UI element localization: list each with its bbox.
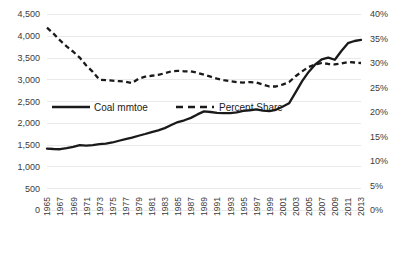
y-axis-right-labels: 0%5%10%15%20%25%30%35%40% <box>370 9 388 215</box>
y-axis-right-tick-label: 0% <box>370 205 383 215</box>
x-axis-tick-label: 2003 <box>291 197 301 216</box>
y-axis-right-tick-label: 25% <box>370 83 388 93</box>
x-axis-tick-label: 1975 <box>108 197 118 216</box>
line-chart: 05001,0001,5002,0002,5003,0003,5004,0004… <box>0 0 407 261</box>
y-axis-right-tick-label: 15% <box>370 132 388 142</box>
x-axis-tick-label: 1985 <box>173 197 183 216</box>
y-axis-left-tick-label: 3,500 <box>17 53 40 63</box>
x-axis-tick-label: 1971 <box>82 197 92 216</box>
y-axis-left-tick-label: 4,000 <box>17 31 40 41</box>
y-axis-right-tick-label: 35% <box>370 34 388 44</box>
y-axis-left-tick-label: 500 <box>25 184 40 194</box>
y-axis-left-tick-label: 3,000 <box>17 75 40 85</box>
legend-label-coal-mmtoe: Coal mmtoe <box>94 102 148 113</box>
y-axis-left-tick-label: 1,500 <box>17 140 40 150</box>
x-axis-tick-label: 2001 <box>278 197 288 216</box>
x-axis-tick-label: 1997 <box>252 197 262 216</box>
x-axis-tick-label: 1989 <box>199 197 209 216</box>
y-axis-left-tick-label: 0 <box>35 205 40 215</box>
x-axis-tick-label: 1991 <box>212 197 222 216</box>
x-axis-tick-label: 2009 <box>330 197 340 216</box>
y-axis-right-tick-label: 10% <box>370 156 388 166</box>
chart-container: 05001,0001,5002,0002,5003,0003,5004,0004… <box>0 0 407 261</box>
x-axis-tick-label: 1977 <box>121 197 131 216</box>
y-axis-right-tick-label: 20% <box>370 107 388 117</box>
x-axis-tick-label: 2013 <box>356 197 366 216</box>
y-axis-left-tick-label: 1,000 <box>17 162 40 172</box>
x-axis-tick-label: 1979 <box>134 197 144 216</box>
x-axis-tick-label: 2005 <box>304 197 314 216</box>
y-axis-right-tick-label: 40% <box>370 9 388 19</box>
y-axis-left-labels: 05001,0001,5002,0002,5003,0003,5004,0004… <box>17 9 40 215</box>
x-axis-tick-label: 1987 <box>186 197 196 216</box>
y-axis-left-tick-label: 2,000 <box>17 118 40 128</box>
y-axis-right-tick-label: 30% <box>370 58 388 68</box>
y-axis-left-tick-label: 4,500 <box>17 9 40 19</box>
x-axis-tick-label: 1993 <box>226 197 236 216</box>
x-axis-tick-label: 1999 <box>265 197 275 216</box>
chart-legend: Coal mmtoePercent Share <box>52 102 283 113</box>
series-line-1 <box>47 40 361 149</box>
x-axis-tick-label: 2007 <box>317 197 327 216</box>
x-axis-tick-label: 2011 <box>343 197 353 216</box>
x-axis-tick-label: 1981 <box>147 197 157 216</box>
x-axis-tick-label: 1965 <box>42 197 52 216</box>
y-axis-right-tick-label: 5% <box>370 181 383 191</box>
legend-label-percent-share: Percent Share <box>219 102 283 113</box>
x-axis-tick-label: 1973 <box>95 197 105 216</box>
x-axis-tick-label: 1967 <box>55 197 65 216</box>
y-axis-left-tick-label: 2,500 <box>17 97 40 107</box>
x-axis-labels: 1965196719691971197319751977197919811983… <box>42 197 366 216</box>
x-axis-tick-label: 1995 <box>239 197 249 216</box>
x-axis-tick-label: 1983 <box>160 197 170 216</box>
x-axis-tick-label: 1969 <box>69 197 79 216</box>
series-lines <box>47 28 361 150</box>
